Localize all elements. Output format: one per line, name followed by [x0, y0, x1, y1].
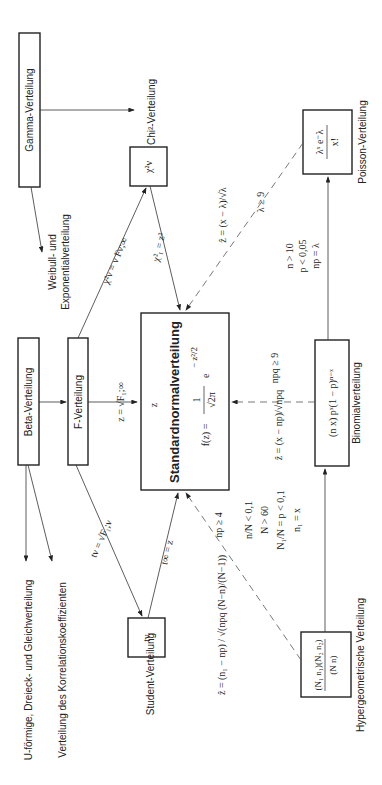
chi2-node: χ²ν — [130, 147, 167, 186]
hyper-binom-cond-3: N₁/N = p < 0,1 — [275, 490, 286, 550]
poisson-den: x! — [329, 138, 340, 146]
formula-exp: e — [200, 373, 211, 378]
korrelation-label: Verteilung des Korrelationskoeffizienten — [57, 582, 68, 757]
f-label: F-Verteilung — [73, 375, 84, 429]
formula-num: 1 — [191, 398, 202, 403]
hyper-binom-cond-1: n/N < 0,1 — [243, 501, 254, 539]
binomial-label: Binomialverteilung — [351, 362, 362, 444]
poisson-label: Poisson-Verteilung — [357, 100, 368, 183]
exponential-label: Exponentialverteilung — [60, 214, 71, 310]
t-inf-label: t∞ = z — [158, 538, 175, 565]
hyper-to-z-label: ẑ = (n₁ − np) / √(npq (N−n)/(N−1)) — [216, 555, 228, 695]
beta-node: Beta-Verteilung — [18, 338, 39, 465]
binomial-formula: (n x) pˣ(1 − p)ⁿ⁻ˣ — [327, 369, 339, 437]
formula-exp-sup: − z²/2 — [189, 347, 199, 368]
formula-lhs: f(z) = — [200, 423, 212, 446]
poisson-to-normal-arrow — [186, 143, 303, 310]
poisson-to-z-label: ẑ = (x − λ)/√λ — [217, 187, 229, 242]
binom-poisson-cond-2: p < 0,05 — [297, 239, 308, 272]
lambda-cond-label: λ ≥ 9 — [255, 192, 266, 212]
beta-label: Beta-Verteilung — [23, 368, 34, 436]
weibull-label: Weibull- und — [47, 234, 58, 289]
student-label: Student-Verteilung — [145, 633, 156, 715]
chi2-from-f-label: χ²ν = ν Fν;∞ — [100, 236, 130, 287]
hyper-den: (N n) — [328, 655, 338, 674]
npq-cond-label: npq ≥ 9 — [269, 353, 280, 384]
gamma-to-weibull-arrow — [31, 187, 42, 252]
standardnormal-node: Standardnormalverteilung z f(z) = 1 √2π … — [141, 313, 229, 490]
beta-to-korrelation-arrow — [28, 465, 52, 561]
hyper-num: (N₁ n₁)(N₂ n₂) — [313, 639, 323, 690]
uform-label: U-förmige, Dreieck- und Gleichverteilung — [23, 580, 34, 761]
poisson-node: λˣ e⁻λ x! — [303, 110, 352, 174]
binom-poisson-cond-1: n > 10 — [284, 243, 295, 269]
t-from-f-label: tν = √F₁;ν — [88, 518, 114, 559]
hypergeometric-node: (N₁ n₁)(N₂ n₂) (N n) — [301, 632, 351, 697]
chi2-label: Chi²-Verteilung — [146, 79, 157, 145]
hyper-binom-cond-4: n₁ = x — [291, 508, 302, 532]
f-node: F-Verteilung — [68, 338, 88, 465]
binomial-node: (n x) pˣ(1 − p)ⁿ⁻ˣ — [315, 340, 349, 466]
gamma-label: Gamma-Verteilung — [24, 68, 35, 151]
hypergeometric-label: Hypergeometrische Verteilung — [355, 598, 366, 732]
binom-to-z-label: ẑ = (x − np)/√npq — [273, 390, 285, 461]
hyper-binom-cond-2: N > 60 — [259, 506, 270, 534]
gamma-node: Gamma-Verteilung — [19, 33, 40, 187]
distribution-relationship-diagram: Gamma-Verteilung Beta-Verteilung F-Verte… — [0, 0, 382, 785]
chi2-symbol: χ²ν — [143, 161, 154, 174]
poisson-num: λˣ e⁻λ — [314, 130, 325, 155]
formula-den: √2π — [206, 392, 217, 408]
standardnormal-var: z — [148, 402, 159, 407]
standardnormal-title: Standardnormalverteilung — [167, 321, 182, 483]
f-to-student-arrow — [76, 465, 142, 616]
binom-poisson-cond-3: np = λ — [310, 243, 321, 269]
np-cond-label: np ≥ 4 — [213, 512, 224, 538]
z-from-f-label: z = √F₁;∞ — [115, 382, 126, 422]
